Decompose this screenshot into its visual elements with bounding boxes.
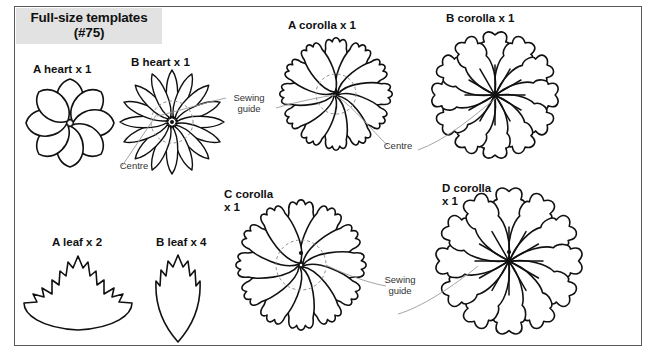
leader-line-sewing-guide-d-corolla xyxy=(398,266,478,314)
page-title-line2: (#75) xyxy=(74,26,105,41)
leader-c-corolla xyxy=(234,198,404,332)
leader-line-sewing-guide-b-heart xyxy=(157,98,226,116)
label-a-heart: A heart x 1 xyxy=(33,63,91,76)
page-title-line1: Full-size templates xyxy=(31,11,148,26)
label-b-corolla: B corolla x 1 xyxy=(446,12,514,25)
leader-line-centre-b-heart xyxy=(122,114,157,166)
leader-line-sewing-guide-c-corolla xyxy=(326,265,386,286)
leader-b-corolla xyxy=(404,30,534,160)
label-a-leaf: A leaf x 2 xyxy=(52,236,102,249)
leader-b-heart xyxy=(108,54,238,174)
page-title: Full-size templates (#75) xyxy=(16,8,162,44)
leader-line-centre-a-corolla xyxy=(337,96,388,146)
leader-line-centre-b-corolla xyxy=(418,98,496,150)
template-sheet: Full-size templates (#75) A heart x 1 B … xyxy=(0,0,658,360)
a-leaf-outline xyxy=(24,256,132,330)
shape-b-leaf xyxy=(152,252,204,344)
label-b-leaf: B leaf x 4 xyxy=(156,236,207,249)
leader-d-corolla xyxy=(404,186,554,336)
shape-a-heart xyxy=(20,78,120,168)
label-a-corolla: A corolla x 1 xyxy=(288,19,356,32)
b-leaf-outline xyxy=(156,255,200,342)
leader-line-guide-a-corolla xyxy=(276,95,336,108)
leader-a-corolla xyxy=(278,36,408,166)
shape-a-leaf xyxy=(20,252,136,336)
